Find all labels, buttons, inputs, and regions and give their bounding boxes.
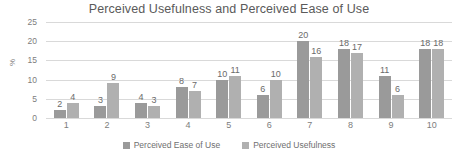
bar[interactable]: [67, 103, 79, 118]
bar-group: 610: [249, 22, 290, 118]
bar[interactable]: [419, 49, 431, 118]
x-axis-tick-label: 2: [87, 120, 128, 130]
bar-group: 39: [87, 22, 128, 118]
bar-value-label: 4: [138, 93, 143, 102]
bar[interactable]: [432, 49, 444, 118]
bar-group: 24: [46, 22, 87, 118]
bar[interactable]: [310, 57, 322, 118]
bar-wrapper: 9: [107, 22, 119, 118]
x-axis-tick-label: 9: [371, 120, 412, 130]
bar[interactable]: [148, 106, 160, 118]
bar-wrapper: 17: [351, 22, 363, 118]
bar-group: 2016: [290, 22, 331, 118]
bar-wrapper: 10: [270, 22, 282, 118]
bar[interactable]: [229, 76, 241, 118]
bar-value-label: 18: [420, 39, 430, 48]
bar-wrapper: 8: [176, 22, 188, 118]
bar-value-label: 3: [151, 96, 156, 105]
bar-group: 1818: [411, 22, 452, 118]
y-axis-tick-label: 15: [0, 56, 37, 65]
x-axis-tick-label: 3: [127, 120, 168, 130]
bar-value-label: 6: [395, 85, 400, 94]
bar[interactable]: [379, 76, 391, 118]
x-axis-tick-label: 10: [411, 120, 452, 130]
legend-swatch-icon: [242, 142, 249, 149]
bar[interactable]: [257, 95, 269, 118]
legend-item[interactable]: Perceived Usefulness: [242, 140, 335, 150]
bar-value-label: 11: [231, 66, 240, 75]
x-axis-tick-label: 1: [46, 120, 87, 130]
bar-value-label: 17: [352, 43, 362, 52]
bar[interactable]: [392, 95, 404, 118]
bar-value-label: 18: [339, 39, 349, 48]
bar-value-label: 20: [298, 31, 308, 40]
bar-wrapper: 18: [338, 22, 350, 118]
bar[interactable]: [270, 80, 282, 118]
legend-item[interactable]: Perceived Ease of Use: [123, 140, 220, 150]
bar-value-label: 6: [260, 85, 265, 94]
bar[interactable]: [176, 87, 188, 118]
bar-value-label: 8: [179, 77, 184, 86]
bar-group: 87: [168, 22, 209, 118]
y-axis-tick-label: 0: [0, 114, 37, 123]
x-axis-tick-label: 6: [249, 120, 290, 130]
x-axis-tick-label: 4: [168, 120, 209, 130]
x-axis-tick-label: 7: [290, 120, 331, 130]
chart-title: Perceived Usefulness and Perceived Ease …: [0, 2, 458, 16]
bar-group: 116: [371, 22, 412, 118]
bar-value-label: 7: [192, 81, 197, 90]
x-axis-tick-label: 8: [330, 120, 371, 130]
bar-value-label: 10: [217, 70, 227, 79]
bar[interactable]: [107, 83, 119, 118]
bar-wrapper: 18: [432, 22, 444, 118]
bar-chart: Perceived Usefulness and Perceived Ease …: [0, 0, 458, 160]
bar-wrapper: 11: [379, 22, 391, 118]
bar-group: 1817: [330, 22, 371, 118]
bar-value-label: 10: [271, 70, 281, 79]
bar[interactable]: [54, 110, 66, 118]
bar[interactable]: [351, 53, 363, 118]
bar-groups: 243943871011610201618171161818: [46, 22, 452, 118]
y-axis-tick-label: 10: [0, 76, 37, 85]
bar-value-label: 4: [70, 93, 75, 102]
plot-area: 0510152025 24394387101161020161817116181…: [46, 22, 452, 118]
bar-wrapper: 6: [392, 22, 404, 118]
bar-group: 43: [127, 22, 168, 118]
y-axis-tick-label: 20: [0, 37, 37, 46]
x-axis-tick-label: 5: [208, 120, 249, 130]
legend-label: Perceived Usefulness: [253, 140, 335, 150]
bar-value-label: 9: [111, 73, 116, 82]
bar-wrapper: 3: [94, 22, 106, 118]
bar-wrapper: 2: [54, 22, 66, 118]
bar[interactable]: [189, 91, 201, 118]
bar-wrapper: 20: [297, 22, 309, 118]
bar-wrapper: 7: [189, 22, 201, 118]
y-axis-tick-label: 5: [0, 95, 37, 104]
bar-value-label: 11: [380, 66, 389, 75]
chart-legend: Perceived Ease of UsePerceived Usefulnes…: [0, 140, 458, 150]
bar-group: 1011: [208, 22, 249, 118]
bar-wrapper: 11: [229, 22, 241, 118]
x-axis-ticks: 12345678910: [46, 120, 452, 130]
gridline: [46, 118, 452, 119]
bar-wrapper: 4: [135, 22, 147, 118]
bar-wrapper: 6: [257, 22, 269, 118]
bar-wrapper: 10: [216, 22, 228, 118]
y-axis-tick-label: 25: [0, 18, 37, 27]
legend-label: Perceived Ease of Use: [134, 140, 220, 150]
bar[interactable]: [338, 49, 350, 118]
bar[interactable]: [135, 103, 147, 118]
bar[interactable]: [94, 106, 106, 118]
bar-value-label: 16: [311, 47, 321, 56]
bar-wrapper: 3: [148, 22, 160, 118]
bar[interactable]: [297, 41, 309, 118]
bar-value-label: 3: [98, 96, 103, 105]
bar-value-label: 2: [57, 100, 62, 109]
bar-wrapper: 16: [310, 22, 322, 118]
bar-wrapper: 18: [419, 22, 431, 118]
legend-swatch-icon: [123, 142, 130, 149]
bar[interactable]: [216, 80, 228, 118]
bar-value-label: 18: [433, 39, 443, 48]
bar-wrapper: 4: [67, 22, 79, 118]
